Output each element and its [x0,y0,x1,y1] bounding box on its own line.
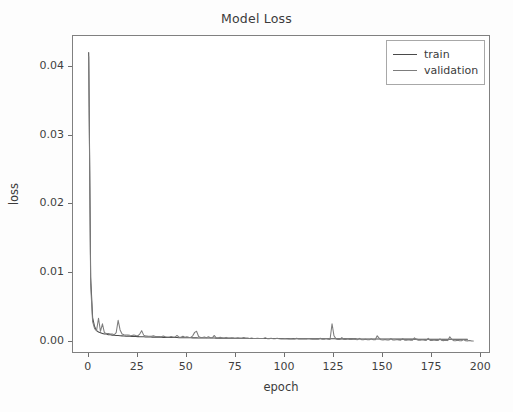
y-tick-mark [68,272,72,273]
legend: train validation [386,40,485,85]
x-tick-label: 150 [372,360,393,373]
y-tick-label: 0.03 [24,128,64,141]
y-tick-label: 0.04 [24,59,64,72]
x-tick-label: 50 [179,360,193,373]
legend-item-train: train [393,46,478,62]
x-tick-label: 200 [470,360,491,373]
y-tick-label: 0.00 [24,334,64,347]
legend-label-train: train [424,48,450,61]
x-tick-label: 125 [323,360,344,373]
x-tick-mark [88,353,89,357]
series-line-train [89,52,468,339]
legend-label-validation: validation [424,64,478,77]
y-tick-mark [68,66,72,67]
series-line-validation [89,57,474,341]
x-tick-mark [431,353,432,357]
x-axis-label: epoch [72,380,490,394]
y-tick-label: 0.02 [24,196,64,209]
x-tick-label: 100 [273,360,294,373]
x-tick-mark [480,353,481,357]
legend-swatch-train [393,54,417,55]
x-tick-label: 75 [228,360,242,373]
legend-item-validation: validation [393,62,478,78]
x-tick-mark [284,353,285,357]
y-tick-mark [68,203,72,204]
x-tick-mark [333,353,334,357]
x-tick-mark [382,353,383,357]
legend-swatch-validation [393,70,417,71]
y-tick-mark [68,341,72,342]
x-tick-mark [235,353,236,357]
x-tick-mark [137,353,138,357]
x-tick-mark [186,353,187,357]
y-tick-mark [68,135,72,136]
page-title: Model Loss [0,11,513,26]
y-axis-label: loss [7,35,21,353]
x-tick-label: 175 [421,360,442,373]
x-tick-label: 0 [84,360,91,373]
x-tick-label: 25 [130,360,144,373]
y-tick-label: 0.01 [24,265,64,278]
figure-canvas: Model Loss 0.000.010.020.030.04 02550751… [0,0,513,412]
